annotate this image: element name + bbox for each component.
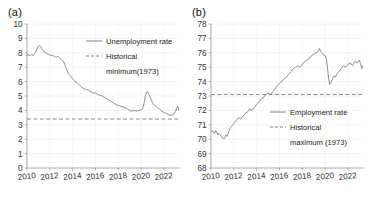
y-tick-label: 3 <box>18 121 23 130</box>
x-tick-label: 2016 <box>86 171 105 182</box>
y-tick-label: 69 <box>197 150 207 159</box>
x-tick-label: 2018 <box>109 171 128 182</box>
legend-label: Unemployment rate <box>106 37 172 46</box>
y-tick-label: 2 <box>18 135 23 144</box>
x-tick-label: 2022 <box>154 171 173 182</box>
x-tick-label: 2014 <box>63 171 82 182</box>
y-tick-label: 78 <box>197 20 207 29</box>
x-tick-label: 2010 <box>201 171 220 182</box>
y-tick-label: 6 <box>18 78 23 87</box>
y-tick-label: 70 <box>197 135 207 144</box>
panel-a-unemployment: (a) 012345678910201020122014201620182020… <box>0 0 184 197</box>
y-tick-label: 72 <box>197 106 207 115</box>
x-tick-label: 2020 <box>131 171 150 182</box>
y-tick-label: 75 <box>197 63 207 72</box>
x-tick-label: 2016 <box>270 171 289 182</box>
panel-b-plot: 6869707172737475767778201020122014201620… <box>184 0 368 197</box>
legend-label: Historical <box>290 123 322 132</box>
y-tick-label: 71 <box>197 121 207 130</box>
y-tick-label: 8 <box>18 49 23 58</box>
y-tick-label: 77 <box>197 34 207 43</box>
panel-a-plot: 0123456789102010201220142016201820202022… <box>0 0 184 197</box>
x-tick-label: 2018 <box>293 171 312 182</box>
y-tick-label: 5 <box>18 92 23 101</box>
legend-label: maximum (1973) <box>290 138 347 147</box>
y-tick-label: 4 <box>18 106 23 115</box>
panel-b-employment: (b) 686970717273747576777820102012201420… <box>184 0 368 197</box>
x-tick-label: 2012 <box>224 171 243 182</box>
y-tick-label: 74 <box>197 78 207 87</box>
y-tick-label: 9 <box>18 34 23 43</box>
x-tick-label: 2020 <box>315 171 334 182</box>
y-tick-label: 73 <box>197 92 207 101</box>
y-tick-label: 7 <box>18 63 23 72</box>
y-tick-label: 10 <box>13 20 23 29</box>
legend-label: Historical <box>106 52 138 61</box>
legend-label: Employment rate <box>290 108 347 117</box>
two-panel-line-chart-figure: (a) 012345678910201020122014201620182020… <box>0 0 369 197</box>
x-tick-label: 2014 <box>247 171 266 182</box>
x-tick-label: 2022 <box>338 171 357 182</box>
y-tick-label: 76 <box>197 49 207 58</box>
x-tick-label: 2010 <box>17 171 36 182</box>
x-tick-label: 2012 <box>40 171 59 182</box>
y-tick-label: 1 <box>18 150 23 159</box>
legend-label: minimum(1973) <box>106 67 159 76</box>
